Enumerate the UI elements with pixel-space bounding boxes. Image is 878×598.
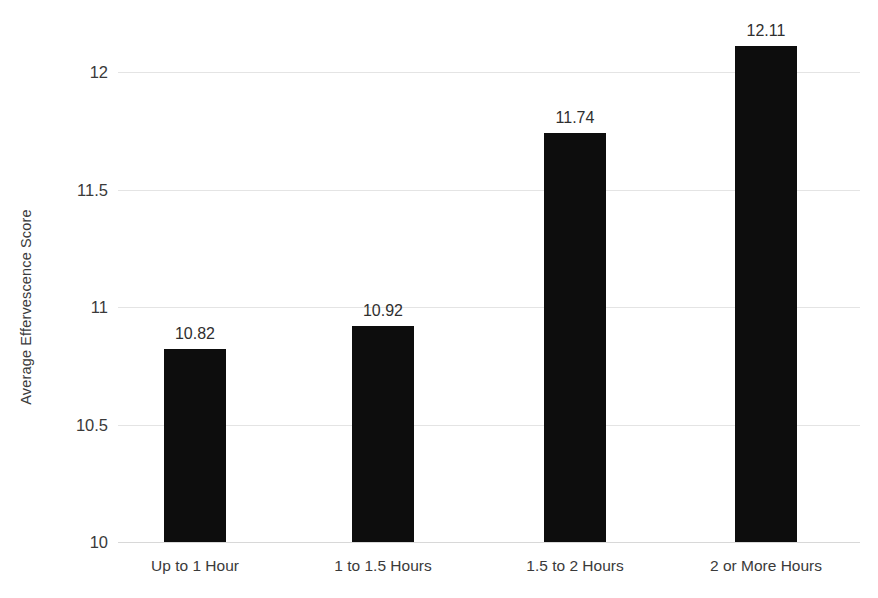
- bar-value-label: 12.11: [706, 22, 826, 40]
- bar[interactable]: [735, 46, 797, 542]
- x-axis-category-label: 2 or More Hours: [676, 557, 856, 575]
- bars-group: 10.8210.9211.7412.11: [118, 0, 860, 598]
- x-axis-category-label: 1 to 1.5 Hours: [293, 557, 473, 575]
- bar[interactable]: [164, 349, 226, 542]
- y-axis-tick-label: 11: [40, 298, 108, 317]
- x-axis-category-label: 1.5 to 2 Hours: [485, 557, 665, 575]
- x-axis-category-label: Up to 1 Hour: [105, 557, 285, 575]
- bar[interactable]: [544, 133, 606, 542]
- y-axis-title: Average Effervescence Score: [13, 72, 39, 542]
- y-axis-tick-label: 10: [40, 533, 108, 552]
- y-axis-tick-label: 12: [40, 63, 108, 82]
- plot-area: 10.8210.9211.7412.11: [118, 0, 860, 598]
- bar-value-label: 10.92: [323, 302, 443, 320]
- y-axis-tick-label: 10.5: [40, 415, 108, 434]
- bar-value-label: 10.82: [135, 325, 255, 343]
- y-axis-tick-labels: 1010.51111.512: [40, 0, 108, 598]
- bar[interactable]: [352, 326, 414, 542]
- bar-value-label: 11.74: [515, 109, 635, 127]
- bar-chart: Average Effervescence Score 1010.51111.5…: [0, 0, 878, 598]
- y-axis-tick-label: 11.5: [40, 180, 108, 199]
